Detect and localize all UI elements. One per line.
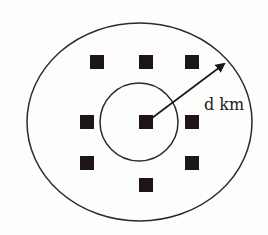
node-middle-right — [185, 115, 199, 129]
node-top-right — [185, 55, 199, 69]
node-top-center — [139, 55, 153, 69]
node-center — [139, 115, 153, 129]
radius-diagram: d km — [0, 0, 268, 235]
nodes-group — [80, 55, 199, 192]
radius-label: d km — [204, 95, 244, 114]
node-top-left — [90, 55, 104, 69]
node-bottom-center — [139, 178, 153, 192]
node-lower-right — [185, 156, 199, 170]
node-lower-left — [80, 156, 94, 170]
node-middle-left — [80, 115, 94, 129]
